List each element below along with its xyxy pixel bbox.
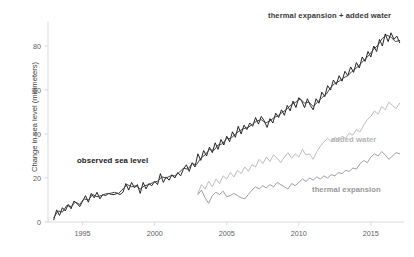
annotation-total-label: thermal expansion + added water xyxy=(268,12,391,20)
y-tick-label-40: 40 xyxy=(0,130,41,139)
x-tick-label-2010: 2010 xyxy=(285,229,313,238)
x-tick-label-2015: 2015 xyxy=(357,229,385,238)
x-tick-label-2005: 2005 xyxy=(213,229,241,238)
annotation-thermal-expansion-label: thermal expansion xyxy=(312,186,381,194)
annotation-added-water-label: added water xyxy=(331,136,376,144)
y-tick-label-20: 20 xyxy=(0,174,41,183)
x-tick-label-1995: 1995 xyxy=(69,229,97,238)
chart-plot-area xyxy=(0,0,414,257)
y-tick-label-0: 0 xyxy=(0,218,41,227)
x-tick-label-2000: 2000 xyxy=(141,229,169,238)
sea-level-chart: Change in sea level (millimeters) 0 20 4… xyxy=(0,0,414,257)
annotation-observed-label: observed sea level xyxy=(77,157,148,165)
y-axis-title: Change in sea level (millimeters) xyxy=(23,42,41,192)
y-axis-title-text: Change in sea level (millimeters) xyxy=(30,62,39,172)
y-tick-label-80: 80 xyxy=(0,42,41,51)
series-thermal-expansion xyxy=(198,152,400,204)
series-added-water xyxy=(198,102,400,193)
y-tick-label-60: 60 xyxy=(0,86,41,95)
